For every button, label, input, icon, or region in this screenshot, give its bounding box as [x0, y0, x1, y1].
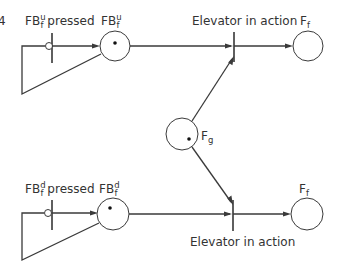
token-fbd [108, 206, 112, 210]
place-fg [166, 118, 198, 150]
place-ff-bottom [291, 198, 323, 230]
arrowhead-icon [225, 44, 233, 49]
place-fbd [97, 198, 129, 230]
arc-fg-to-elevator-bottom [192, 147, 231, 202]
label-elevator-bottom: Elevator in action [190, 235, 295, 249]
place-fbu [100, 31, 130, 61]
arc-loop-top [22, 46, 101, 94]
figure-number-fragment: 4 [0, 14, 6, 28]
label-ff-top: Ff [300, 14, 311, 30]
label-ff-bottom: Ff [299, 182, 310, 198]
token-fg [187, 137, 191, 141]
label-elevator-top: Elevator in action [192, 14, 297, 28]
inhibitor-arc-head-bottom [45, 210, 52, 217]
arrowhead-icon [285, 44, 293, 49]
label-fbd-place: FBdf [99, 180, 120, 198]
label-fg: Fg [201, 129, 213, 145]
token-fbu [113, 41, 117, 45]
arrowhead-icon [224, 212, 232, 217]
arrowhead-icon [92, 44, 100, 49]
petri-net-diagram: 4 FBuf pressed FBuf Elevator in action F… [0, 0, 341, 278]
arc-fg-to-elevator-top [192, 59, 232, 121]
arc-loop-bottom [22, 213, 99, 260]
label-fbu-place: FBuf [101, 12, 122, 30]
label-fbu-pressed: FBuf pressed [25, 12, 95, 30]
label-fbd-pressed: FBdf pressed [25, 180, 95, 198]
inhibitor-arc-head-top [46, 43, 53, 50]
place-ff-top [293, 31, 323, 61]
arrowhead-icon [283, 212, 291, 217]
